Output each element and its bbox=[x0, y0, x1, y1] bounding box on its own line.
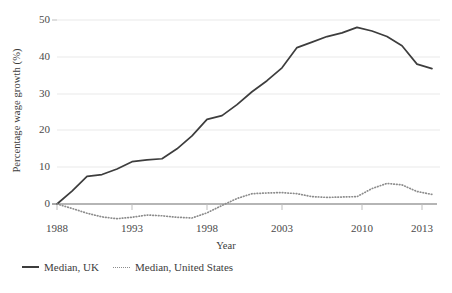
legend-swatch-dotted-line-icon bbox=[113, 267, 130, 268]
series-line-median-united-states bbox=[57, 183, 432, 218]
chart-legend: Median, UK Median, United States bbox=[22, 261, 233, 273]
legend-entry-median-uk: Median, UK bbox=[22, 261, 99, 273]
y-axis-ticks bbox=[52, 20, 57, 204]
x-axis-ticks bbox=[57, 204, 422, 210]
legend-label-median-uk: Median, UK bbox=[44, 261, 99, 273]
line-chart-figure: Percentage wage growth (%) 50 40 30 20 1… bbox=[0, 0, 452, 293]
legend-entry-median-united-states: Median, United States bbox=[113, 261, 233, 273]
plot-area bbox=[0, 0, 452, 293]
legend-label-median-united-states: Median, United States bbox=[135, 261, 233, 273]
legend-swatch-solid-line-icon bbox=[22, 266, 39, 268]
gridlines bbox=[57, 20, 440, 167]
series-line-median-uk bbox=[57, 27, 432, 204]
